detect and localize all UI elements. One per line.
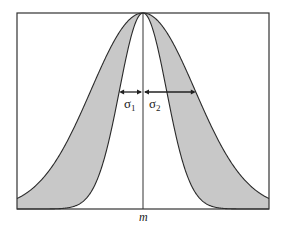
mean-label: m [139,211,148,223]
sigma1-label: σ1 [124,97,136,110]
sigma2-label: σ2 [149,97,161,110]
sigma1-arrow [119,89,142,94]
gaussian-figure [0,0,282,230]
